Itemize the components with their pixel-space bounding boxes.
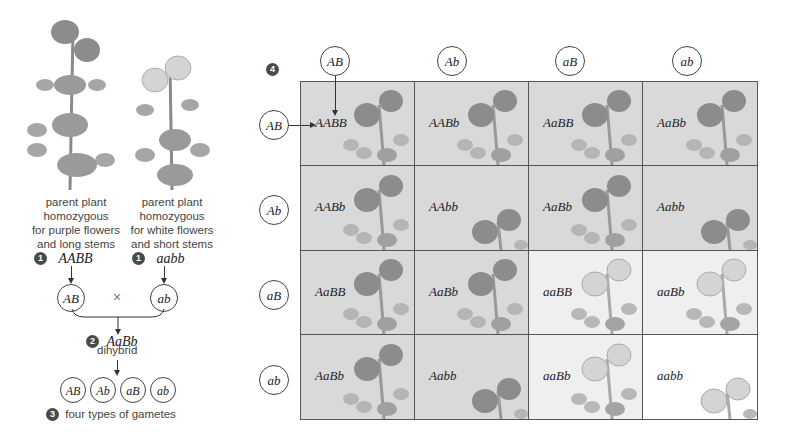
white-flower-tall-icon bbox=[682, 254, 757, 334]
white-flower-short-icon bbox=[692, 369, 757, 419]
row-header-aB: aB bbox=[259, 280, 289, 310]
arrow-line bbox=[335, 76, 336, 112]
cell-r0-c3: AaBb bbox=[643, 82, 757, 166]
step-1-badge: 1 bbox=[34, 252, 47, 265]
gamete-parent-left: AB bbox=[57, 284, 85, 312]
arrow-line bbox=[289, 125, 312, 126]
cell-r0-c1: AABb bbox=[415, 82, 529, 166]
purple-flower-tall-icon bbox=[567, 170, 642, 250]
parent-plant-white-illustration bbox=[120, 50, 220, 190]
cell-r3-c2: aaBb bbox=[529, 335, 643, 419]
row-header-ab: ab bbox=[259, 365, 289, 395]
gamete-AB: AB bbox=[60, 377, 86, 403]
cell-r0-c2: AaBB bbox=[529, 82, 643, 166]
cell-r3-c3: aabb bbox=[643, 335, 757, 419]
gamete-parent-right: ab bbox=[150, 284, 178, 312]
cell-r0-c0: AABB bbox=[301, 82, 415, 166]
col-header-ab: ab bbox=[672, 46, 702, 76]
white-flower-tall-icon bbox=[567, 254, 642, 334]
dihybrid-label: dihybrid bbox=[97, 344, 137, 356]
purple-flower-short-icon bbox=[692, 200, 757, 250]
purple-flower-tall-icon bbox=[453, 85, 528, 165]
purple-flower-tall-icon bbox=[339, 85, 414, 165]
purple-flower-tall-icon bbox=[567, 85, 642, 165]
step-4-badge: 4 bbox=[266, 60, 279, 78]
purple-flower-tall-icon bbox=[682, 85, 757, 165]
purple-flower-tall-icon bbox=[453, 254, 528, 334]
cross-symbol: × bbox=[113, 289, 121, 305]
arrow-right-icon bbox=[310, 122, 316, 128]
purple-flower-tall-icon bbox=[339, 254, 414, 334]
cell-r2-c3: aaBb bbox=[643, 251, 757, 335]
gamete-aB: aB bbox=[120, 377, 146, 403]
cell-r1-c3: Aabb bbox=[643, 166, 757, 250]
row-header-AB: AB bbox=[259, 110, 289, 140]
gametes-label: 3 four types of gametes bbox=[46, 408, 176, 421]
cell-r3-c1: Aabb bbox=[415, 335, 529, 419]
parent-left-genotype: 1 AABB bbox=[34, 249, 93, 267]
cell-r2-c0: AaBB bbox=[301, 251, 415, 335]
purple-flower-tall-icon bbox=[339, 170, 414, 250]
purple-flower-short-icon bbox=[463, 200, 528, 250]
step-1-badge: 1 bbox=[132, 252, 145, 265]
cell-r2-c1: AaBb bbox=[415, 251, 529, 335]
col-header-Ab: Ab bbox=[437, 46, 467, 76]
arrow-down-icon bbox=[114, 370, 120, 376]
cell-r1-c1: AAbb bbox=[415, 166, 529, 250]
cell-r2-c2: aaBB bbox=[529, 251, 643, 335]
col-header-AB: AB bbox=[320, 46, 350, 76]
gamete-ab: ab bbox=[150, 377, 176, 403]
punnett-square: AABB AABb AaBB AaBb AABb AAbb AaBb Aabb … bbox=[300, 81, 758, 420]
cell-r1-c2: AaBb bbox=[529, 166, 643, 250]
parent-plant-purple-illustration bbox=[15, 10, 115, 190]
row-header-Ab: Ab bbox=[259, 195, 289, 225]
arrow-down-icon bbox=[332, 110, 338, 116]
parent-right-caption: parent plant homozygous for white flower… bbox=[112, 195, 232, 251]
white-flower-tall-icon bbox=[567, 339, 642, 419]
purple-flower-tall-icon bbox=[339, 339, 414, 419]
gamete-Ab: Ab bbox=[90, 377, 116, 403]
purple-flower-short-icon bbox=[463, 369, 528, 419]
cell-r3-c0: AaBb bbox=[301, 335, 415, 419]
step-3-badge: 3 bbox=[46, 408, 59, 421]
cell-r1-c0: AABb bbox=[301, 166, 415, 250]
col-header-aB: aB bbox=[555, 46, 585, 76]
parent-right-genotype: 1 aabb bbox=[132, 249, 184, 267]
